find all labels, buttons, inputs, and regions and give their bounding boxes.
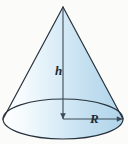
cone-illustration xyxy=(0,0,128,144)
radius-label: R xyxy=(90,112,99,125)
height-label: h xyxy=(55,64,62,77)
cone-figure: h R xyxy=(0,0,128,144)
